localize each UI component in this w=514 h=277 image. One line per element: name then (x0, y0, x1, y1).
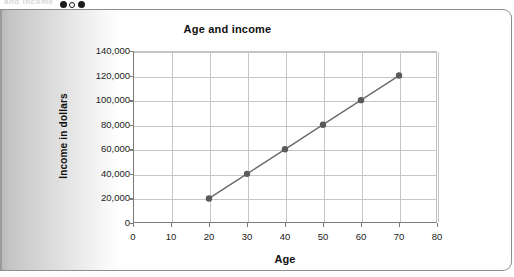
marker-dot-filled-left (60, 1, 67, 8)
x-axis-tick-mark (285, 223, 286, 227)
x-axis-tick-label: 0 (118, 231, 148, 242)
x-axis-tick-label: 50 (308, 231, 338, 242)
x-axis-tick-label: 20 (194, 231, 224, 242)
scanned-page-sheet: Age and income Income in dollars 020,000… (0, 9, 512, 271)
y-axis-tick-label: 20,000 (70, 192, 130, 203)
x-axis-tick-mark (247, 223, 248, 227)
y-axis-tick-label: 60,000 (70, 143, 130, 154)
data-point-marker (244, 171, 250, 177)
marker-dot-hollow-center (69, 2, 75, 8)
chart-figure: Age and income Income in dollars 020,000… (0, 10, 512, 271)
x-axis-tick-label: 40 (270, 231, 300, 242)
data-point-marker (358, 97, 364, 103)
x-axis-tick-mark (437, 223, 438, 227)
chart-title: Age and income (0, 23, 455, 35)
x-axis-tick-label: 30 (232, 231, 262, 242)
x-axis-tick-label: 70 (384, 231, 414, 242)
marker-dot-filled-right (78, 1, 85, 8)
x-axis-ticks: 01020304050607080 (133, 223, 437, 253)
data-point-marker (396, 72, 402, 78)
x-axis-tick-mark (399, 223, 400, 227)
ghost-text-artifact: and income (4, 0, 53, 6)
data-point-marker (206, 195, 212, 201)
y-axis-tick-label: 0 (70, 217, 130, 228)
x-axis-tick-mark (323, 223, 324, 227)
page-marker-dots (60, 1, 88, 9)
y-axis-tick-label: 80,000 (70, 119, 130, 130)
screenshot-root: and income Age and income Income in doll… (0, 0, 514, 277)
y-axis-tick-labels: 020,00040,00060,00080,000100,000120,0001… (68, 51, 130, 223)
gridline-vertical (438, 52, 439, 222)
x-axis-tick-label: 60 (346, 231, 376, 242)
x-axis-tick-mark (133, 223, 134, 227)
data-point-marker (282, 146, 288, 152)
x-axis-title: Age (133, 253, 437, 265)
data-series-line (133, 51, 437, 223)
x-axis-tick-label: 80 (422, 231, 452, 242)
series-line (209, 76, 399, 199)
x-axis-tick-label: 10 (156, 231, 186, 242)
x-axis-tick-mark (209, 223, 210, 227)
y-axis-tick-label: 100,000 (70, 94, 130, 105)
y-axis-tick-label: 140,000 (70, 45, 130, 56)
y-axis-tick-label: 40,000 (70, 168, 130, 179)
scan-top-strip: and income (0, 0, 514, 9)
x-axis-tick-mark (361, 223, 362, 227)
data-point-marker (320, 122, 326, 128)
y-axis-tick-label: 120,000 (70, 70, 130, 81)
x-axis-tick-mark (171, 223, 172, 227)
